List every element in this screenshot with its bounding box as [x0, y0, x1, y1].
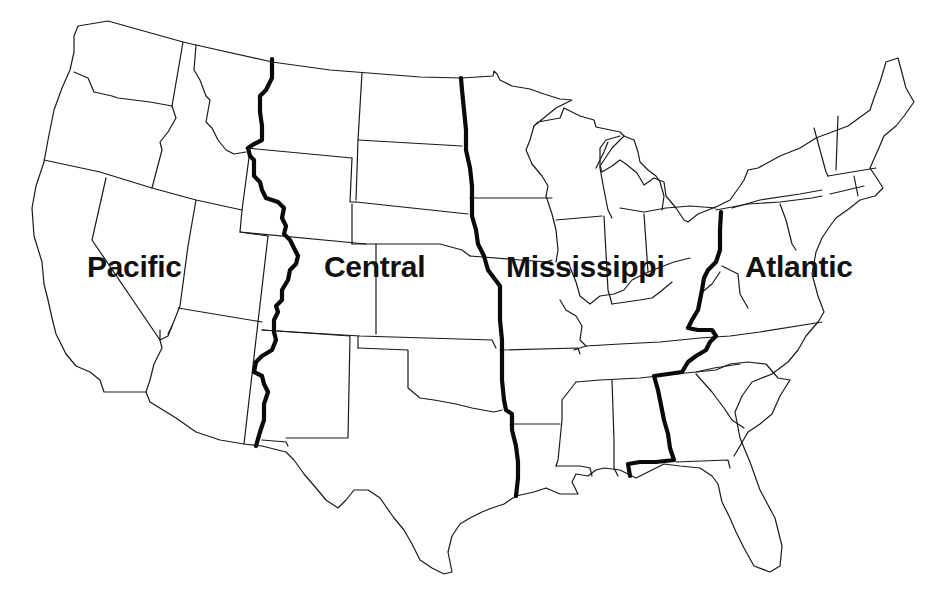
region-label-atlantic: Atlantic	[745, 252, 853, 282]
region-label-pacific: Pacific	[87, 252, 182, 282]
divider-central-mississippi	[461, 78, 518, 496]
divider-pacific-central	[248, 59, 298, 446]
region-label-central: Central	[324, 252, 425, 282]
us-map	[0, 0, 929, 602]
country-outline	[32, 21, 914, 574]
region-label-mississippi: Mississippi	[506, 252, 664, 282]
